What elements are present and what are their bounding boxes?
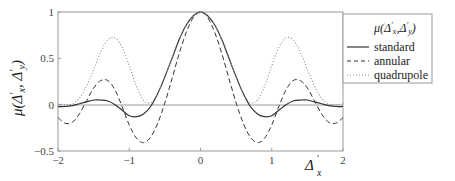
legend-label-standard: standard xyxy=(374,40,415,54)
legend-label-quadrupole: quadrupole xyxy=(374,68,428,82)
curve-standard xyxy=(58,12,343,117)
y-tick-label: 1 xyxy=(49,6,55,18)
x-tick-label: 2 xyxy=(340,154,346,166)
x-tick-label: 1 xyxy=(269,154,275,166)
y-axis-ticks: −0.500.51 xyxy=(34,6,61,157)
curve-annular xyxy=(58,12,343,143)
curve-quadrupole xyxy=(58,12,343,105)
line-chart: μ(Δ′x, Δ′y) −0.500.51 −2−1012 Δ ′ x μ(Δ′… xyxy=(0,0,455,181)
x-axis-label: Δ ′ x xyxy=(304,153,322,178)
y-axis-label-text: μ(Δ′x, Δ′y) xyxy=(8,60,27,117)
plot-area-frame xyxy=(58,12,343,151)
plot-curves xyxy=(58,12,343,143)
x-tick-label: 0 xyxy=(198,154,204,166)
legend: μ(Δ′x,Δ′y) standard annular quadrupole xyxy=(343,14,432,83)
x-axis-label-delta: Δ xyxy=(304,157,314,173)
x-tick-label: −2 xyxy=(52,154,64,166)
y-axis-label: μ(Δ′x, Δ′y) xyxy=(8,60,27,117)
y-tick-label: 0.5 xyxy=(40,52,54,64)
x-tick-label: −1 xyxy=(123,154,135,166)
x-axis-label-subscript: x xyxy=(316,167,322,178)
y-tick-label: 0 xyxy=(49,99,55,111)
legend-label-annular: annular xyxy=(374,54,410,68)
x-axis-label-prime: ′ xyxy=(317,153,319,164)
